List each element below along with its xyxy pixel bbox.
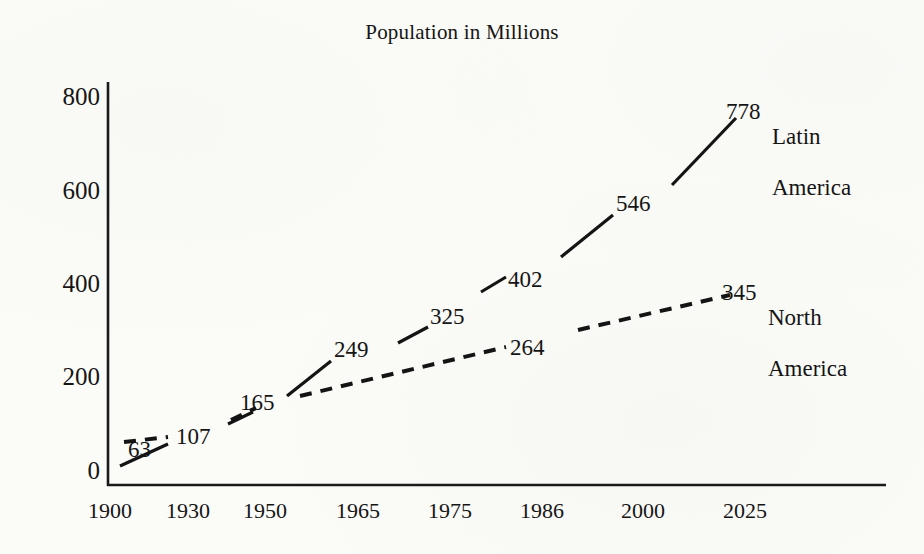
data-point-label: 63 [128, 438, 151, 461]
north-america-segment [300, 347, 506, 396]
plot-area [0, 0, 924, 554]
data-point-label: 107 [176, 425, 211, 448]
y-tick-label: 200 [28, 364, 100, 389]
data-point-label: 546 [616, 192, 651, 215]
y-tick-label: 400 [28, 271, 100, 296]
series-line-north-america [124, 295, 730, 442]
data-point-label: 778 [726, 100, 761, 123]
data-point-label: 345 [722, 281, 757, 304]
y-tick-label: 0 [28, 458, 100, 483]
data-point-label: 264 [510, 336, 545, 359]
x-tick-label: 2000 [595, 500, 691, 522]
x-tick-label: 2025 [697, 500, 793, 522]
north-america-segment [578, 295, 730, 330]
series-label-line1: North [768, 305, 847, 331]
chart-page: Population in Millions 800 600 400 200 0… [0, 0, 924, 554]
data-point-label: 325 [430, 305, 465, 328]
series-line-latin-america [120, 118, 736, 466]
series-label-line2: America [768, 356, 847, 382]
x-tick-label: 1975 [402, 500, 498, 522]
x-tick-label: 1986 [494, 500, 590, 522]
series-label-line1: Latin [772, 124, 851, 150]
latin-america-segment [672, 118, 736, 185]
x-tick-label: 1950 [217, 500, 313, 522]
y-tick-label: 600 [28, 178, 100, 203]
data-point-label: 165 [240, 391, 275, 414]
series-label-line2: America [772, 175, 851, 201]
latin-america-segment [398, 327, 428, 343]
series-label-north-america: North America [768, 279, 847, 408]
latin-america-segment [481, 277, 506, 292]
data-point-label: 249 [334, 338, 369, 361]
data-point-label: 402 [508, 268, 543, 291]
latin-america-segment [561, 215, 613, 257]
x-tick-label: 1965 [310, 500, 406, 522]
series-label-latin-america: Latin America [772, 98, 851, 227]
y-tick-label: 800 [28, 84, 100, 109]
